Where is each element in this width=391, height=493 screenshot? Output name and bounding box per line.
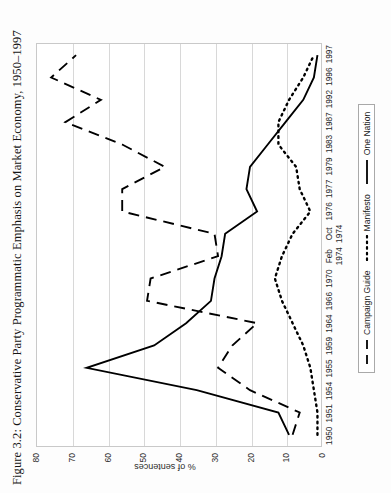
- legend-label: One Nation: [362, 112, 372, 155]
- figure-caption: Figure 3.2: Conservative Party Programma…: [10, 30, 25, 485]
- legend-entry-campaign-guide: Campaign Guide: [362, 271, 372, 366]
- legend-swatch-solid: [363, 159, 371, 185]
- x-tick-label: 1954: [325, 382, 335, 400]
- x-tick-label: 1966: [325, 292, 335, 310]
- figure-sheet: Figure 3.2: Conservative Party Programma…: [0, 0, 391, 493]
- y-tick-label: 0: [317, 453, 327, 458]
- y-tick-label: 80: [31, 453, 41, 462]
- legend-swatch-dotted: [363, 236, 371, 262]
- legend-entry-one-nation: One Nation: [362, 112, 372, 185]
- chart-legend: Campaign GuideManifestoOne Nation: [358, 104, 375, 373]
- scanned-figure-page: Figure 3.2: Conservative Party Programma…: [0, 0, 391, 493]
- series-line-manifesto: [275, 55, 318, 435]
- x-tick-label: 1979: [325, 157, 335, 175]
- y-tick-label: 70: [67, 453, 77, 462]
- x-tick-label: 1983: [325, 135, 335, 153]
- x-tick-label: 1992: [325, 90, 335, 108]
- x-tick-label: 1977: [325, 180, 335, 198]
- x-tick-label: 1951: [325, 404, 335, 422]
- x-tick-label: 1950: [325, 427, 335, 445]
- x-tick-label: Oct 1974: [325, 225, 345, 243]
- legend-swatch-dashed: [363, 339, 371, 365]
- x-tick-label: 1964: [325, 314, 335, 332]
- legend-entry-manifesto: Manifesto: [362, 194, 372, 261]
- x-tick-label: Feb 1974: [325, 247, 345, 265]
- y-tick-label: 10: [281, 453, 291, 462]
- series-line-campaign-guide: [51, 55, 299, 435]
- y-tick-label: 20: [246, 453, 256, 462]
- x-tick-label: 1976: [325, 202, 335, 220]
- x-tick-label: 1996: [325, 68, 335, 86]
- series-line-one-nation: [87, 55, 318, 435]
- legend-label: Manifesto: [362, 194, 372, 231]
- x-tick-label: 1987: [325, 112, 335, 130]
- y-axis-label: % of sentences: [95, 462, 235, 472]
- x-tick-label: 1955: [325, 359, 335, 377]
- legend-label: Campaign Guide: [362, 271, 372, 336]
- x-tick-label: 1997: [325, 45, 335, 63]
- x-tick-label: 1959: [325, 337, 335, 355]
- series-container: [37, 44, 321, 446]
- plot-area: [36, 43, 322, 447]
- x-tick-label: 1970: [325, 270, 335, 288]
